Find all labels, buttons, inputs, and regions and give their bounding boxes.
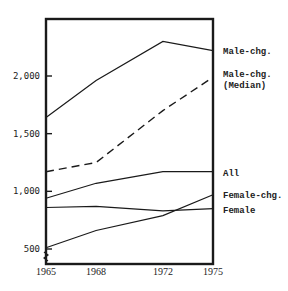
y-tick-label: 500 — [24, 244, 40, 254]
series-label: Male-chg. — [223, 47, 272, 57]
axis-break-icon — [44, 252, 48, 261]
x-tick-label: 1965 — [36, 266, 56, 277]
series-label: Female — [223, 206, 255, 216]
plot-border — [46, 19, 213, 264]
series-line — [46, 206, 213, 211]
x-tick-label: 1975 — [203, 266, 223, 277]
series-line — [46, 77, 213, 172]
series-label: Male-chg. — [223, 70, 272, 80]
x-tick-label: 1972 — [153, 266, 173, 277]
y-tick-label: 1,000 — [13, 186, 40, 196]
series-line — [46, 195, 213, 248]
series-labels: Male-chg.Male-chg.(Median)AllFemale-chg.… — [223, 47, 282, 216]
series-line — [46, 41, 213, 117]
y-tick-label: 1,500 — [13, 129, 40, 139]
series-label: (Median) — [223, 81, 266, 91]
series-label: All — [223, 169, 240, 179]
line-chart: 5001,0001,5002,000 1965196819721975 Male… — [0, 0, 288, 291]
x-tick-label: 1968 — [86, 266, 106, 277]
x-axis-ticks: 1965196819721975 — [36, 266, 223, 277]
y-tick-label: 2,000 — [13, 71, 40, 81]
series-lines — [46, 41, 213, 247]
series-line — [46, 172, 213, 199]
plot-frame — [44, 19, 213, 264]
series-label: Female-chg. — [223, 191, 282, 201]
